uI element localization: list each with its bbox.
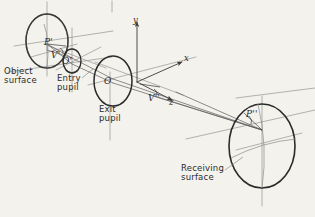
receiving-surface-label: Receiving surface — [181, 164, 224, 182]
receiving-plane-guide-upper — [236, 88, 315, 98]
point-o-prime-label: O' — [62, 57, 72, 66]
x-axis-arrow — [137, 62, 182, 82]
exit-pupil-ellipse — [94, 56, 132, 106]
z-axis-label: z — [169, 98, 174, 107]
point-p-prime-label: P' — [44, 38, 53, 47]
point-v-prime-label: V' — [51, 51, 60, 60]
object-surface-label: Object surface — [4, 67, 37, 85]
exit-pupil-label: Exit pupil — [99, 105, 121, 123]
receiving-surface-horizontal-axis — [236, 133, 302, 150]
entry-pupil-leader — [82, 69, 93, 78]
point-p-double-prime-label: P'' — [246, 110, 258, 119]
y-axis-label: y — [133, 16, 138, 25]
optical-ray-diagram — [0, 0, 315, 217]
ray-exit-to-receiving-upper — [113, 79, 262, 130]
point-o-label: O — [104, 77, 112, 86]
object-plane-guide-line — [14, 31, 113, 46]
entry-pupil-label: Entry pupil — [57, 74, 81, 92]
pencil-construction-lines — [8, 1, 315, 206]
coordinate-axes — [137, 22, 182, 100]
point-v-double-prime-label: V'' — [148, 94, 160, 103]
x-axis-label: x — [184, 54, 189, 63]
